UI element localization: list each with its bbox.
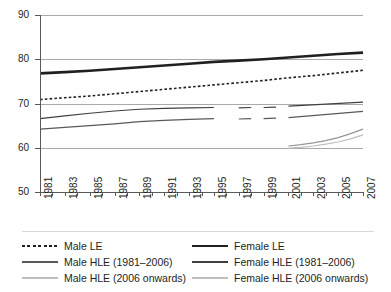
x-axis-tick-label: 1983 [69, 177, 79, 199]
x-axis-tick-mark [65, 192, 66, 196]
legend-item: Female LE [192, 241, 382, 252]
y-axis-tick-label: 70 [5, 99, 29, 109]
y-axis-tick-mark [35, 59, 40, 60]
x-axis-tick-label: 1991 [168, 177, 178, 199]
plot-area [40, 15, 363, 192]
x-axis-tick-mark [214, 192, 215, 196]
y-axis [40, 15, 41, 192]
x-axis-tick-label: 2001 [292, 177, 302, 199]
x-axis-tick-mark [338, 192, 339, 196]
series-line [40, 53, 363, 74]
x-axis-tick-label: 1999 [268, 177, 278, 199]
x-axis-tick-label: 2003 [317, 177, 327, 199]
legend-item: Male HLE (1981–2006) [22, 257, 192, 268]
y-axis-tick-mark [35, 104, 40, 105]
x-axis-tick-label: 1989 [143, 177, 153, 199]
x-axis-tick-mark [239, 192, 240, 196]
y-axis-tick-label: 90 [5, 10, 29, 20]
x-axis-tick-label: 2005 [342, 177, 352, 199]
series-line [288, 111, 363, 117]
x-axis-tick-mark [40, 192, 41, 196]
legend-item: Male HLE (2006 onwards) [22, 273, 192, 284]
legend-label: Female HLE (2006 onwards) [234, 273, 368, 284]
series-line [40, 107, 214, 118]
legend-item: Female HLE (1981–2006) [192, 257, 382, 268]
y-axis-tick-label: 60 [5, 143, 29, 153]
x-axis-tick-mark [313, 192, 314, 196]
series-line [288, 102, 363, 106]
legend-item: Male LE [22, 241, 192, 252]
y-axis-tick-mark [35, 15, 40, 16]
x-axis-tick-mark [264, 192, 265, 196]
chart-legend: Male LEFemale LEMale HLE (1981–2006)Fema… [22, 238, 382, 286]
x-axis-tick-mark [139, 192, 140, 196]
x-axis-tick-label: 1987 [119, 177, 129, 199]
x-axis-tick-label: 1995 [218, 177, 228, 199]
legend-label: Male HLE (2006 onwards) [64, 273, 186, 284]
x-axis-tick-mark [164, 192, 165, 196]
legend-label: Male LE [64, 241, 103, 252]
series-line [40, 119, 214, 130]
x-axis-tick-mark [363, 192, 364, 196]
series-line [288, 129, 363, 146]
y-axis-tick-label: 80 [5, 54, 29, 64]
x-axis-tick-mark [189, 192, 190, 196]
series-line [40, 70, 363, 99]
x-axis-tick-label: 1997 [243, 177, 253, 199]
legend-label: Female HLE (1981–2006) [234, 257, 355, 268]
y-axis-tick-label: 50 [5, 187, 29, 197]
x-axis-tick-label: 2007 [367, 177, 377, 199]
legend-divider [22, 231, 374, 232]
legend-label: Female LE [234, 241, 285, 252]
x-axis-tick-label: 1993 [193, 177, 203, 199]
x-axis-tick-mark [90, 192, 91, 196]
x-axis-tick-label: 1985 [94, 177, 104, 199]
y-axis-tick-mark [35, 148, 40, 149]
x-axis-tick-mark [115, 192, 116, 196]
legend-item: Female HLE (2006 onwards) [192, 273, 382, 284]
x-axis-tick-label: 1981 [44, 177, 54, 199]
series-lines [40, 15, 363, 192]
x-axis-tick-mark [288, 192, 289, 196]
series-line [288, 135, 363, 148]
legend-label: Male HLE (1981–2006) [64, 257, 173, 268]
life-expectancy-chart: 5060708090 19811983198519871989199119931… [0, 0, 391, 292]
